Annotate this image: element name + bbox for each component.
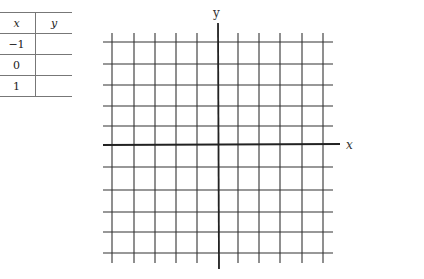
y-axis-label: y [212,6,220,20]
x-axis [103,144,340,145]
x-axis-label: x [346,138,353,152]
coordinate-grid: x y [0,0,424,279]
y-axis [218,23,219,269]
